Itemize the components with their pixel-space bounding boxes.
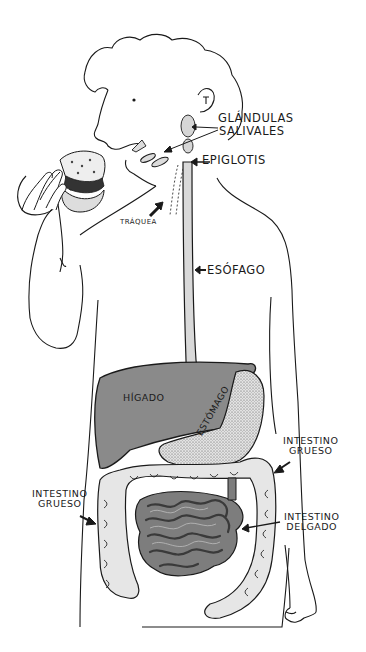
label-traquea: TRÁQUEA — [120, 219, 157, 227]
trachea — [170, 165, 184, 215]
label-epiglotis: EPIGLOTIS — [202, 154, 266, 167]
label-intestino-grueso-left-line2: GRUESO — [32, 499, 87, 509]
label-glandulas-salivales-line1: GLÁNDULAS — [218, 112, 294, 125]
label-intestino-grueso-right-line2: GRUESO — [283, 446, 338, 456]
label-glandulas-salivales-line2: SALIVALES — [219, 125, 285, 138]
label-esofago: ESÓFAGO — [207, 264, 265, 277]
label-intestino-delgado: INTESTINO DELGADO — [284, 512, 339, 533]
eye — [132, 98, 135, 101]
hand-with-burger — [22, 151, 105, 212]
small-intestine — [136, 478, 243, 576]
label-higado: HÍGADO — [123, 393, 165, 403]
label-intestino-grueso-right: INTESTINO GRUESO — [283, 436, 338, 457]
label-intestino-delgado-line2: DELGADO — [284, 522, 339, 532]
salivary-glands — [181, 115, 195, 153]
arrow-glandulas — [196, 127, 218, 128]
mouth — [132, 140, 170, 169]
digestive-system-diagram — [0, 0, 366, 652]
label-intestino-grueso-left: INTESTINO GRUESO — [32, 489, 87, 510]
